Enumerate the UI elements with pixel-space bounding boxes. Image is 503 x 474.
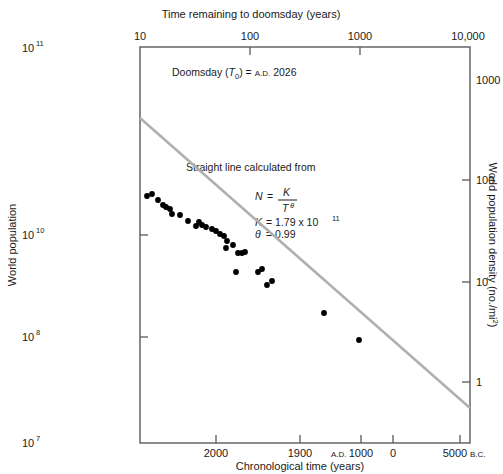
doomsday-annotation-ad: A.D.: [255, 69, 271, 78]
top-axis-tick-1000: 1000: [348, 30, 372, 42]
bottom-axis-tick-1900: 1900: [288, 447, 312, 459]
left-tick-label-1e11: 10: [22, 42, 34, 54]
equation-denominator-T: T: [282, 202, 290, 214]
bottom-axis-title: Chronological time (years): [236, 460, 364, 472]
top-axis-title: Time remaining to doomsday (years): [162, 8, 341, 20]
fit-caption: Straight line calculated from: [186, 161, 316, 173]
right-axis-title: World population density (no./mi2): [487, 163, 500, 328]
left-tick-label-1e8: 10: [22, 331, 34, 343]
param-K-value: = 1.79 x 10: [266, 216, 318, 228]
data-points-layer: [144, 191, 362, 343]
left-axis-tick-1e7: 10 7: [22, 434, 40, 449]
left-tick-label-1e10: 10: [22, 229, 34, 241]
data-point: [259, 266, 265, 272]
doomsday-annotation: Doomsday (T0) = A.D. 2026: [172, 66, 297, 81]
doomsday-population-chart: Time remaining to doomsday (years) 10 10…: [0, 0, 503, 474]
top-axis-tick-10000: 10,000: [451, 30, 485, 42]
bottom-axis-tick-0: 0: [390, 447, 396, 459]
data-point: [264, 282, 270, 288]
doomsday-annotation-prefix: Doomsday (: [172, 66, 229, 78]
bottom-axis-tick-2000: 2000: [204, 447, 228, 459]
right-tick-label-1000: 1000: [476, 74, 500, 86]
left-tick-exp-1e8: 8: [36, 328, 40, 337]
left-axis-tick-1e8: 10 8: [22, 328, 148, 343]
plot-frame: [140, 47, 470, 443]
bottom-axis-bc-suffix: B.C.: [470, 450, 486, 459]
data-point: [167, 206, 173, 212]
data-point: [242, 249, 248, 255]
data-point: [149, 191, 155, 197]
data-point: [269, 278, 275, 284]
right-tick-label-100: 100: [476, 174, 494, 186]
right-tick-label-1: 1: [476, 376, 482, 388]
fit-parameter-K: K = 1.79 x 10 11: [255, 214, 340, 228]
left-axis-tick-1e10: 10 10: [22, 226, 148, 241]
data-point: [169, 211, 175, 217]
left-tick-exp-1e7: 7: [36, 434, 40, 443]
chart-svg: Time remaining to doomsday (years) 10 10…: [0, 0, 503, 474]
param-K-exponent: 11: [332, 214, 340, 223]
data-point: [221, 233, 227, 239]
left-axis-title: World population: [6, 204, 18, 286]
data-point: [185, 218, 191, 224]
data-point: [224, 238, 230, 244]
data-point: [155, 197, 161, 203]
bottom-axis-ad-prefix: A.D.: [331, 450, 347, 459]
data-point: [177, 212, 183, 218]
equation-numerator-K: K: [283, 186, 291, 198]
data-point: [356, 337, 362, 343]
right-axis-title-close: ): [487, 324, 499, 328]
data-point: [233, 269, 239, 275]
data-point: [144, 193, 150, 199]
param-theta-symbol: θ: [255, 228, 261, 240]
left-tick-exp-1e11: 11: [36, 39, 44, 48]
equation-equals: =: [267, 190, 273, 202]
bottom-axis-tick-1000: 1000: [349, 447, 373, 459]
fit-equation: N = K T θ: [255, 186, 297, 214]
doomsday-annotation-mid: ) =: [239, 66, 254, 78]
data-point: [203, 224, 209, 230]
doomsday-annotation-year: 2026: [273, 66, 297, 78]
left-axis-tick-1e11: 10 11: [22, 39, 44, 54]
data-point: [230, 242, 236, 248]
data-point: [223, 245, 229, 251]
right-axis-title-text: World population density (no./mi: [487, 163, 499, 320]
equation-N: N: [255, 190, 263, 202]
equation-denominator-theta: θ: [290, 201, 294, 210]
top-axis-tick-10: 10: [134, 30, 146, 42]
right-tick-label-10: 10: [476, 276, 488, 288]
bottom-axis-tick-5000: 5000: [443, 447, 467, 459]
left-tick-label-1e7: 10: [22, 437, 34, 449]
top-axis-tick-100: 100: [241, 30, 259, 42]
data-point: [321, 310, 327, 316]
right-axis-title-group: World population density (no./mi2): [487, 163, 500, 328]
left-tick-exp-1e10: 10: [36, 226, 44, 235]
